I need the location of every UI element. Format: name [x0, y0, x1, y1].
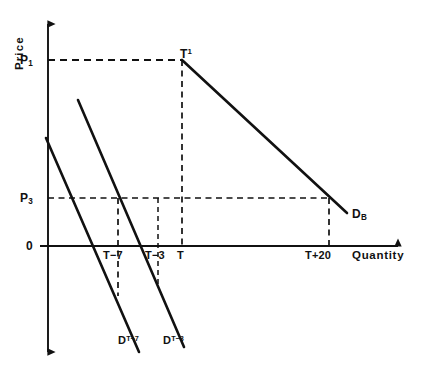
kink-point-label-t1: T1 — [180, 48, 192, 60]
curve-label-d-t-minus-3: DT−3 — [163, 335, 184, 346]
price-label-p3-base: P — [20, 191, 28, 205]
x-tick-label-t-minus-7: T−7 — [103, 250, 123, 261]
curve-label-d-t-minus-3-sup: T−3 — [171, 334, 184, 343]
curve-label-d-t-minus-7: DT−7 — [118, 335, 139, 346]
curve-label-d-t-minus-7-base: D — [118, 334, 126, 346]
price-label-p1-base: P — [20, 53, 28, 67]
curve-label-d-t-minus-7-sup: T−7 — [126, 334, 139, 343]
curve-label-db-sub: B — [361, 213, 367, 222]
curve-label-db: DB — [352, 208, 367, 222]
x-tick-label-t: T — [177, 250, 184, 261]
x-tick-label-t-plus-20: T+20 — [305, 250, 331, 261]
curve-label-d-t-minus-3-base: D — [163, 334, 171, 346]
curve-d-t-minus-7 — [46, 138, 139, 352]
price-label-p1: P1 — [20, 54, 33, 68]
price-label-p3-sub: 3 — [28, 197, 33, 206]
curve-d-t-minus-3 — [78, 100, 184, 347]
kink-point-label-sup: 1 — [188, 47, 192, 56]
chart-canvas — [0, 0, 424, 372]
origin-label: 0 — [26, 240, 33, 252]
price-label-p3: P3 — [20, 192, 33, 206]
y-axis-title: Price — [12, 0, 24, 28]
x-axis-title: Quantity — [352, 250, 404, 262]
curve-label-db-base: D — [352, 207, 361, 221]
kink-point-label-base: T — [180, 47, 188, 61]
x-tick-label-t-minus-3: T−3 — [145, 250, 165, 261]
price-label-p1-sub: 1 — [28, 59, 33, 68]
demand-curve-figure: Price Quantity 0 P1 P3 T1 DB T−7 T−3 T T… — [0, 0, 424, 372]
curve-db — [182, 60, 347, 213]
